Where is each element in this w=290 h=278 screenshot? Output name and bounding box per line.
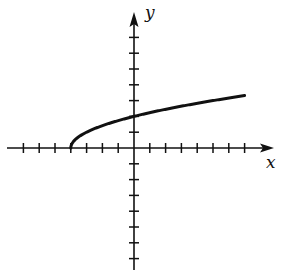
x-axis-label: x [266,152,276,172]
function-curve [71,96,245,148]
y-axis-label: y [144,2,155,22]
coordinate-plane: x y [0,0,290,278]
function-graph: x y [0,0,290,278]
axes [7,12,274,270]
